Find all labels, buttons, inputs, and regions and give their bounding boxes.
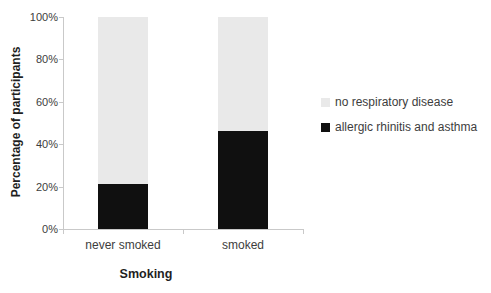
bar-segment-never-smoked-no-respiratory-disease: [98, 17, 148, 184]
legend-swatch-allergic-rhinitis-and-asthma: [321, 123, 330, 132]
legend-item-no-respiratory-disease: no respiratory disease: [321, 95, 477, 109]
bar-segment-smoked-no-respiratory-disease: [218, 17, 268, 131]
y-tick-mark-80: [59, 59, 63, 60]
x-axis-title: Smoking: [120, 267, 173, 281]
stacked-bar-chart: Percentage of participants 0%20%40%60%80…: [0, 0, 491, 293]
y-tick-label-80: 80%: [36, 52, 58, 66]
bar-segment-smoked-allergic-rhinitis-and-asthma: [218, 131, 268, 229]
y-axis-labels: 0%20%40%60%80%100%: [0, 0, 58, 293]
legend-swatch-no-respiratory-disease: [321, 98, 330, 107]
x-tick-mark-0: [63, 230, 64, 234]
x-category-label-smoked: smoked: [222, 238, 264, 252]
x-category-label-never-smoked: never smoked: [85, 238, 160, 252]
bar-segment-never-smoked-allergic-rhinitis-and-asthma: [98, 184, 148, 229]
legend-item-allergic-rhinitis-and-asthma: allergic rhinitis and asthma: [321, 120, 477, 134]
legend: no respiratory disease allergic rhinitis…: [321, 95, 477, 134]
y-tick-mark-60: [59, 102, 63, 103]
y-tick-mark-20: [59, 187, 63, 188]
legend-label-allergic-rhinitis-and-asthma: allergic rhinitis and asthma: [335, 120, 477, 134]
x-tick-mark-1: [183, 230, 184, 234]
y-tick-label-60: 60%: [36, 95, 58, 109]
y-tick-label-0: 0%: [42, 222, 58, 236]
y-tick-label-20: 20%: [36, 180, 58, 194]
y-tick-label-40: 40%: [36, 137, 58, 151]
x-tick-mark-2: [303, 230, 304, 234]
plot-area: [63, 17, 303, 229]
legend-label-no-respiratory-disease: no respiratory disease: [335, 95, 453, 109]
y-tick-label-100: 100%: [30, 10, 58, 24]
y-tick-mark-100: [59, 17, 63, 18]
y-tick-mark-40: [59, 144, 63, 145]
